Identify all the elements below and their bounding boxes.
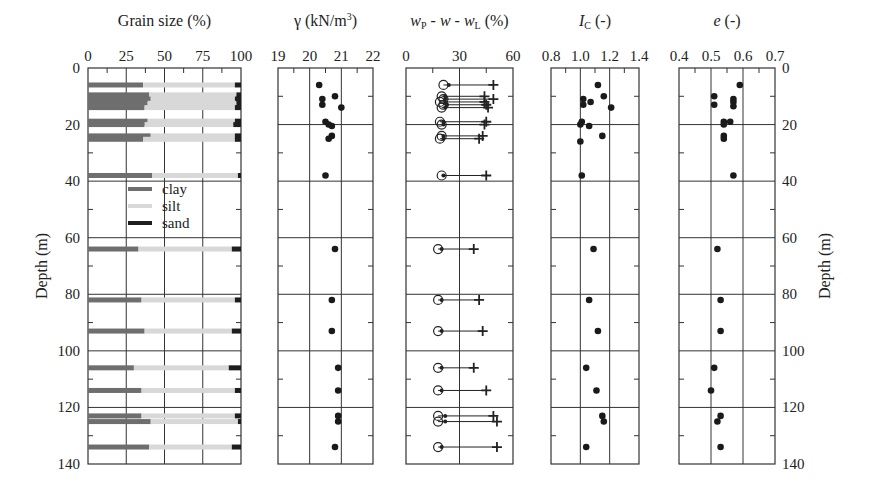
bar-sand [235, 137, 241, 142]
legend-label-sand: sand [162, 215, 190, 231]
data-point [577, 138, 584, 145]
depth-tick-label-right: 40 [782, 173, 797, 189]
data-point [711, 93, 718, 100]
bar-silt [145, 122, 234, 127]
panel-frame [679, 68, 775, 464]
atterberg-panel: 03060wP - w - wL (%) [402, 12, 520, 464]
x-tick-label: 22 [366, 48, 381, 64]
bar-sand [235, 105, 241, 110]
w-marker [440, 247, 444, 251]
legend-label-silt: silt [162, 198, 181, 214]
x-tick-label: 50 [157, 48, 172, 64]
data-point [601, 93, 608, 100]
data-point [590, 246, 597, 253]
x-tick-label: 21 [334, 48, 349, 64]
data-point [714, 418, 721, 425]
bar-sand [235, 388, 241, 393]
data-point [335, 365, 342, 372]
panel-title: Grain size (%) [118, 12, 211, 30]
data-point [580, 101, 587, 108]
bar-clay [88, 122, 145, 127]
w-marker [443, 414, 447, 418]
data-point [335, 418, 342, 425]
data-point [316, 82, 323, 89]
data-point [579, 172, 586, 179]
bar-clay [88, 365, 134, 370]
w-marker [447, 83, 451, 87]
data-point [717, 444, 724, 451]
x-tick-label: 1.2 [600, 48, 619, 64]
bar-silt [145, 329, 232, 334]
data-point [595, 82, 602, 89]
data-point [711, 101, 718, 108]
bar-clay [88, 105, 145, 110]
data-point [329, 297, 336, 304]
bar-silt [134, 365, 229, 370]
wl-marker [488, 80, 498, 90]
w-marker [440, 388, 444, 392]
wl-marker [478, 326, 488, 336]
depth-tick-label: 140 [58, 456, 81, 472]
wl-marker [474, 295, 484, 305]
w-marker [440, 445, 444, 449]
data-point [727, 118, 734, 125]
data-point [332, 93, 339, 100]
depth-tick-label: 120 [58, 399, 81, 415]
data-point [601, 418, 608, 425]
bar-clay [88, 413, 142, 418]
data-point [583, 444, 590, 451]
consistency-index-panel: 0.81.01.21.4IC (-) [542, 12, 649, 464]
wl-marker [488, 94, 498, 104]
grain-size-panel: 0255075100claysiltsandGrain size (%)0204… [58, 12, 253, 472]
w-marker [440, 366, 444, 370]
bar-sand [238, 173, 241, 178]
data-point [595, 328, 602, 335]
data-point [319, 101, 326, 108]
bar-clay [88, 388, 142, 393]
wl-marker [469, 244, 479, 254]
data-point [325, 135, 332, 142]
depth-tick-label-right: 60 [782, 230, 797, 246]
depth-tick-label: 80 [65, 286, 80, 302]
bar-silt [151, 419, 238, 424]
panel-title: wP - w - wL (%) [410, 12, 508, 31]
depth-axis-label-right: Depth (m) [816, 233, 834, 299]
data-point [730, 103, 737, 110]
panel-frame [551, 68, 639, 464]
data-point [737, 82, 744, 89]
depth-tick-label-right: 120 [782, 399, 805, 415]
panel-frame [278, 68, 373, 464]
depth-tick-label-right: 20 [782, 117, 797, 133]
data-point [711, 365, 718, 372]
data-point [332, 444, 339, 451]
data-point [587, 99, 594, 106]
x-tick-label: 0 [84, 48, 92, 64]
wl-marker [469, 363, 479, 373]
depth-tick-label: 60 [65, 230, 80, 246]
data-point [577, 121, 584, 128]
w-marker [441, 137, 445, 141]
depth-tick-label-right: 0 [782, 60, 790, 76]
w-marker [441, 173, 445, 177]
data-point [322, 172, 329, 179]
bar-clay [88, 329, 145, 334]
bar-silt [145, 105, 235, 110]
x-tick-label: 0.5 [702, 48, 721, 64]
data-point [730, 172, 737, 179]
bar-sand [232, 329, 241, 334]
bar-silt [143, 137, 235, 142]
bar-sand [229, 365, 241, 370]
data-point [332, 246, 339, 253]
data-point [338, 104, 345, 111]
depth-tick-label-right: 80 [782, 286, 797, 302]
x-tick-label: 19 [271, 48, 286, 64]
panel-title: e (-) [713, 12, 740, 30]
bar-silt [142, 388, 235, 393]
x-tick-label: 0.8 [542, 48, 561, 64]
depth-tick-label-right: 140 [782, 456, 805, 472]
depth-tick-label: 100 [58, 343, 81, 359]
wl-marker [481, 385, 491, 395]
bar-sand [235, 82, 241, 87]
bar-clay [88, 247, 138, 252]
x-tick-label: 25 [119, 48, 134, 64]
